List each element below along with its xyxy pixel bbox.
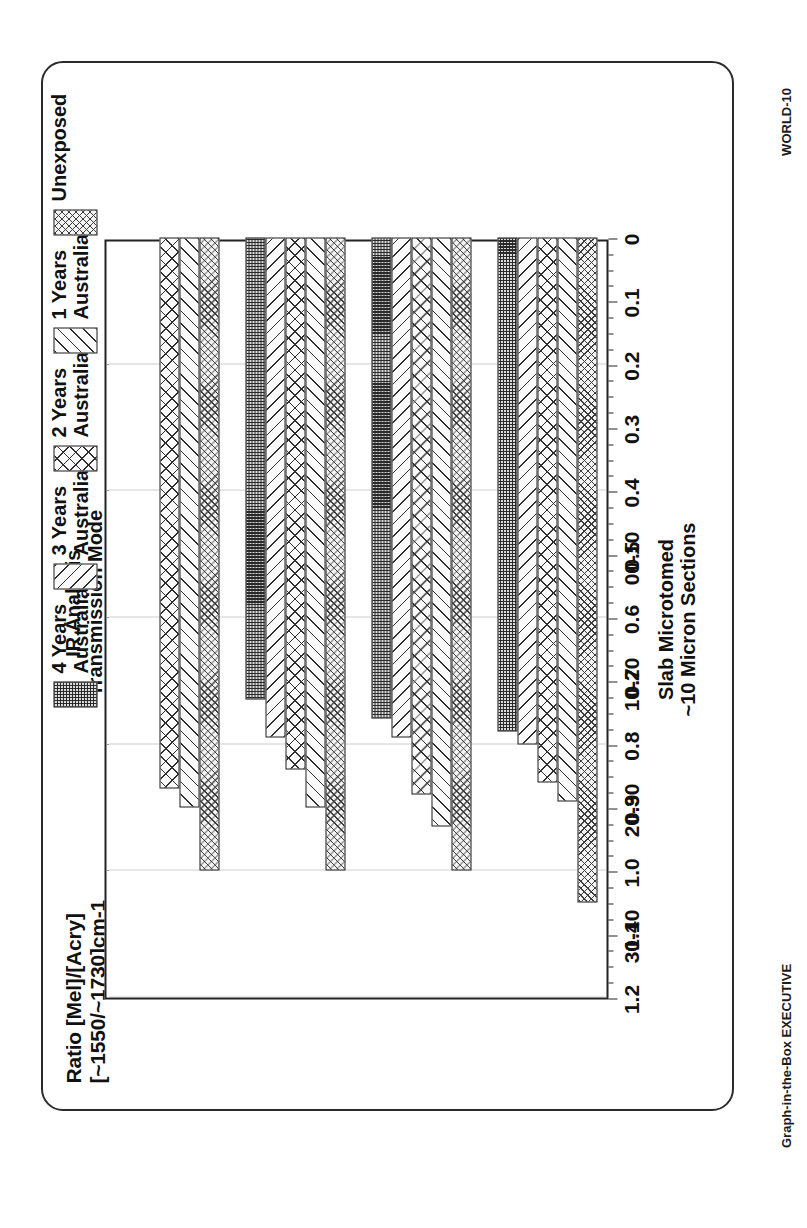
bar-30-40-1-years-australia: [179, 237, 199, 807]
legend-label-line2: Australia: [69, 351, 91, 437]
value-minor-tick: [608, 476, 613, 477]
value-minor-tick: [608, 539, 613, 540]
bar-30-40-2-years-australia: [159, 237, 179, 788]
value-minor-tick: [608, 586, 613, 587]
bar-00-10-2-years-australia: [537, 237, 557, 782]
legend-label-line1: 3 Years: [47, 469, 69, 555]
value-tick-label: 0.2: [619, 351, 643, 380]
bar-30-40-unexposed: [199, 237, 219, 870]
value-tick-label: 0.5: [619, 541, 643, 570]
value-tick: [608, 681, 617, 682]
value-minor-tick: [608, 982, 613, 983]
value-minor-tick: [608, 349, 613, 350]
value-minor-tick: [608, 951, 613, 952]
value-tick-label: 0.3: [619, 414, 643, 443]
value-minor-tick: [608, 460, 613, 461]
bar-00-10-1-years-australia: [557, 237, 577, 801]
gridline: [106, 869, 606, 870]
legend-swatch-unexposed: [53, 209, 97, 235]
legend-swatch-2-years: [53, 445, 97, 471]
value-tick: [608, 428, 617, 429]
value-minor-tick: [608, 903, 613, 904]
value-tick: [608, 555, 617, 556]
legend-label-line2: Australia: [69, 587, 91, 673]
value-minor-tick: [608, 713, 613, 714]
value-tick: [608, 365, 617, 366]
value-minor-tick: [608, 634, 613, 635]
legend-label-line1: 2 Years: [47, 351, 69, 437]
value-minor-tick: [608, 919, 613, 920]
value-tick-label: 0.9: [619, 794, 643, 823]
value-minor-tick: [608, 666, 613, 667]
value-minor-tick: [608, 887, 613, 888]
bar-10-20-4-years-australia: [371, 237, 391, 718]
plot-area: [104, 239, 608, 999]
value-minor-tick: [608, 966, 613, 967]
value-tick-label: 0.7: [619, 668, 643, 697]
legend-label-line1: 1 Years: [47, 233, 69, 319]
legend-swatch-3-years: [53, 563, 97, 589]
legend-label-line2: Australia: [69, 233, 91, 319]
category-axis-title-line1: Slab Microtomed: [654, 522, 676, 716]
value-tick: [608, 618, 617, 619]
bar-00-10-unexposed: [577, 237, 597, 902]
legend-label: Unexposed: [47, 93, 69, 201]
value-minor-tick: [608, 602, 613, 603]
value-minor-tick: [608, 650, 613, 651]
value-minor-tick: [608, 571, 613, 572]
value-minor-tick: [608, 824, 613, 825]
chart-canvas: Ratio [Mel]/[Acry] [~1550/~1730]cm-1 IR …: [41, 61, 734, 1111]
value-tick: [608, 745, 617, 746]
category-axis-title-line2: ~10 Micron Sections: [676, 522, 698, 716]
bar-20-30-3-years-australia: [265, 237, 285, 737]
value-minor-tick: [608, 396, 613, 397]
value-minor-tick: [608, 507, 613, 508]
bar-20-30-2-years-australia: [285, 237, 305, 769]
value-tick-label: 0.8: [619, 731, 643, 760]
legend-label-line1: Unexposed: [47, 93, 69, 201]
value-minor-tick: [608, 792, 613, 793]
value-minor-tick: [608, 412, 613, 413]
bar-00-10-3-years-australia: [517, 237, 537, 744]
value-tick-label: 0.4: [619, 478, 643, 507]
value-minor-tick: [608, 523, 613, 524]
legend-label: 2 YearsAustralia: [47, 351, 92, 437]
value-tick: [608, 301, 617, 302]
value-tick: [608, 238, 617, 239]
value-tick-label: 0: [619, 233, 643, 245]
value-tick-label: 0.6: [619, 604, 643, 633]
bar-20-30-4-years-australia: [245, 237, 265, 699]
value-tick-label: 1.2: [619, 984, 643, 1013]
bar-10-20-2-years-australia: [411, 237, 431, 794]
value-minor-tick: [608, 729, 613, 730]
legend-label: 3 YearsAustralia: [47, 469, 92, 555]
bar-10-20-unexposed: [451, 237, 471, 870]
value-minor-tick: [608, 761, 613, 762]
value-minor-tick: [608, 381, 613, 382]
value-minor-tick: [608, 840, 613, 841]
rotated-chart-wrapper: Ratio [Mel]/[Acry] [~1550/~1730]cm-1 IR …: [41, 61, 734, 1111]
legend-swatch-4-years: [53, 681, 97, 707]
value-minor-tick: [608, 856, 613, 857]
value-tick-label: 1.1: [619, 921, 643, 950]
legend-swatch-1-years: [53, 327, 97, 353]
value-minor-tick: [608, 286, 613, 287]
value-tick-label: 1.0: [619, 858, 643, 887]
bar-10-20-3-years-australia: [391, 237, 411, 737]
legend-label: 1 YearsAustralia: [47, 233, 92, 319]
value-tick: [608, 491, 617, 492]
value-minor-tick: [608, 697, 613, 698]
value-tick-label: 0.1: [619, 288, 643, 317]
value-minor-tick: [608, 776, 613, 777]
value-minor-tick: [608, 444, 613, 445]
bar-10-20-1-years-australia: [431, 237, 451, 826]
world-tag: WORLD-10: [779, 88, 794, 156]
value-tick: [608, 998, 617, 999]
graph-in-the-box-tag: Graph-in-the-Box EXECUTIVE: [779, 964, 794, 1148]
bar-00-10-4-years-australia: [497, 237, 517, 731]
value-minor-tick: [608, 317, 613, 318]
value-minor-tick: [608, 254, 613, 255]
chart-legend: 4 YearsAustralia3 YearsAustralia2 YearsA…: [41, 239, 99, 999]
value-tick: [608, 935, 617, 936]
value-tick: [608, 871, 617, 872]
